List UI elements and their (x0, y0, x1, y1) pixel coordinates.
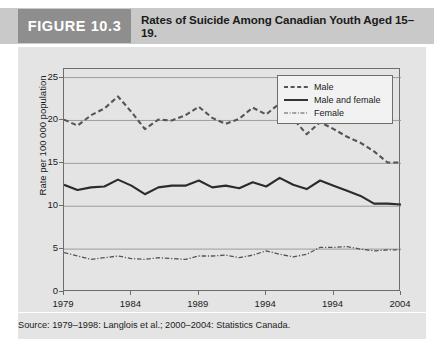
series-line-male-and-female (64, 178, 401, 205)
legend-label-male-and-female: Male and female (314, 95, 381, 105)
y-tick-label: 5 (32, 242, 58, 253)
legend-item-male: Male (283, 80, 387, 93)
x-tick-mark (400, 291, 401, 295)
y-tick-mark (59, 248, 63, 249)
legend-item-female: Female (283, 106, 387, 119)
source-divider (18, 312, 426, 313)
source-note: Source: 1979–1998: Langlois et al.; 2000… (18, 320, 426, 330)
x-tick-mark (130, 291, 131, 295)
y-tick-mark (59, 119, 63, 120)
figure-number-badge: FIGURE 10.3 (18, 9, 131, 43)
x-tick-label: 1984 (109, 298, 151, 309)
figure-title: Rates of Suicide Among Canadian Youth Ag… (141, 9, 426, 43)
y-tick-label: 0 (32, 285, 58, 296)
x-tick-mark (198, 291, 199, 295)
x-tick-label: 1994 (312, 298, 354, 309)
y-tick-label: 25 (32, 71, 58, 82)
x-tick-mark (333, 291, 334, 295)
x-tick-mark (265, 291, 266, 295)
legend-swatch-dashed (283, 82, 309, 92)
chart-legend: Male Male and female Female (277, 75, 393, 124)
legend-label-male: Male (314, 82, 334, 92)
y-tick-mark (59, 77, 63, 78)
x-tick-mark (63, 291, 64, 295)
y-tick-label: 20 (32, 113, 58, 124)
x-tick-label: 1989 (177, 298, 219, 309)
legend-swatch-solid (283, 95, 309, 105)
plot-area: Male Male and female Female (63, 68, 400, 291)
figure-container: FIGURE 10.3 Rates of Suicide Among Canad… (0, 0, 434, 351)
x-tick-label: 2004 (379, 298, 421, 309)
y-tick-mark (59, 162, 63, 163)
y-tick-label: 10 (32, 199, 58, 210)
figure-number-label: FIGURE 10.3 (28, 18, 122, 34)
legend-swatch-dash-dot (283, 108, 309, 118)
series-line-female (64, 247, 401, 260)
y-tick-mark (59, 205, 63, 206)
x-tick-label: 1979 (42, 298, 84, 309)
y-tick-label: 15 (32, 156, 58, 167)
legend-item-male-and-female: Male and female (283, 93, 387, 106)
figure-body-panel: Rate per 100 000 population Male Male an… (18, 47, 426, 339)
x-tick-label: 1994 (244, 298, 286, 309)
legend-label-female: Female (314, 108, 344, 118)
